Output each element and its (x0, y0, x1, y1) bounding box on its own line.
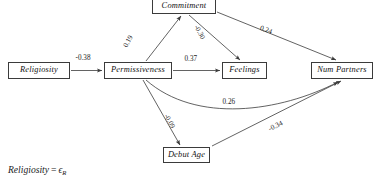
node-permissiveness[interactable]: Permissiveness (104, 62, 172, 79)
edge-debutage-to-numpartners (212, 81, 341, 146)
node-religiosity[interactable]: Religiosity (8, 62, 70, 79)
node-religiosity-label: Religiosity (20, 66, 58, 74)
node-commitment[interactable]: Commitment (152, 0, 216, 14)
path-diagram: Religiosity Permissiveness Commitment Fe… (0, 0, 378, 187)
node-numpartners[interactable]: Num Partners (311, 62, 373, 79)
edge-permissiveness-to-numpartners (146, 80, 338, 109)
edge-permissiveness-to-debutage (143, 80, 180, 145)
node-feelings-label: Feelings (229, 66, 259, 74)
edge-permissiveness-to-commitment (146, 16, 181, 61)
edge-label-permissiveness-to-feelings: 0.37 (184, 56, 198, 63)
node-permissiveness-label: Permissiveness (111, 66, 165, 74)
node-numpartners-label: Num Partners (317, 66, 367, 74)
residual-equation: Religiosity=ϵR (8, 165, 66, 175)
edge-label-permissiveness-to-numpartners: 0.26 (222, 99, 236, 106)
edge-commitment-to-numpartners (217, 12, 336, 60)
node-commitment-label: Commitment (162, 2, 207, 10)
equation-subscript: R (62, 169, 66, 176)
edge-label-religiosity-to-permissiveness: -0.38 (75, 55, 91, 62)
equation-lhs: Religiosity (8, 164, 49, 175)
node-feelings[interactable]: Feelings (222, 62, 267, 79)
node-debutage[interactable]: Debut Age (163, 147, 210, 163)
node-debutage-label: Debut Age (168, 151, 205, 159)
